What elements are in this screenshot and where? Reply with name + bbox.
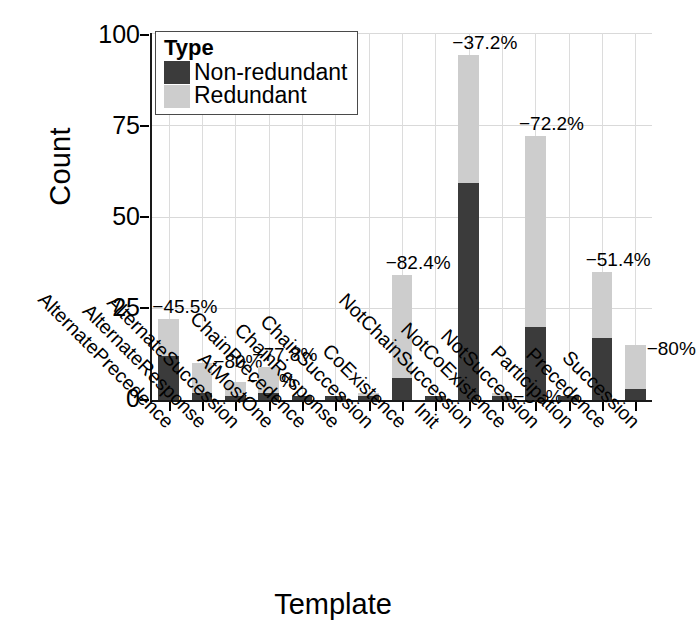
bar-annotation-notchainsuccession: −37.2% xyxy=(452,33,517,52)
y-tick-label-50: 50 xyxy=(68,204,140,229)
legend-title: Type xyxy=(164,37,347,60)
legend: Type Non-redundant Redundant xyxy=(155,31,358,115)
bar-segment-non-redundant xyxy=(392,378,413,400)
bar-segment-redundant xyxy=(625,345,646,389)
y-tickmark xyxy=(140,34,149,36)
bar-annotation-succession: −80% xyxy=(647,339,696,358)
y-tick-label-100: 100 xyxy=(68,22,140,47)
bar-segment-redundant xyxy=(458,55,479,183)
y-tickmark xyxy=(140,125,149,127)
bar-segment-redundant xyxy=(525,136,546,327)
bar-annotation-precedence: −51.4% xyxy=(586,250,651,269)
bar-annotation-notsuccession: −72.2% xyxy=(519,114,584,133)
y-tickmark xyxy=(140,307,149,309)
legend-swatch-redundant xyxy=(164,85,190,108)
x-axis-title: Template xyxy=(0,588,666,621)
y-tickmark xyxy=(140,216,149,218)
legend-item-redundant: Redundant xyxy=(164,84,347,108)
y-tick-label-75: 75 xyxy=(68,113,140,138)
legend-label-redundant: Redundant xyxy=(194,84,307,108)
legend-swatch-non-redundant xyxy=(164,61,190,84)
bar-segment-non-redundant xyxy=(625,389,646,400)
legend-label-non-redundant: Non-redundant xyxy=(194,61,347,85)
legend-item-non-redundant: Non-redundant xyxy=(164,61,347,85)
bar-segment-redundant xyxy=(592,272,613,338)
bar-succession[interactable] xyxy=(625,345,646,400)
bar-annotation-coexistence: −82.4% xyxy=(386,253,451,272)
